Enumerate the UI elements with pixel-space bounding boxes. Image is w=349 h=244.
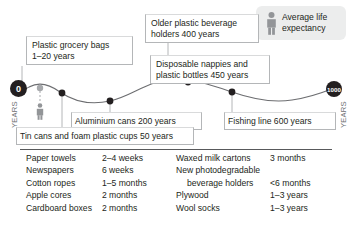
- table-cell-duration: 3 months: [270, 152, 310, 164]
- legend-label: Average life expectancy: [282, 12, 344, 34]
- label-aluminium-cans: Aluminium cans 200 years: [75, 116, 176, 127]
- table-cell-duration: 2–4 weeks: [102, 152, 147, 164]
- table-row: Paper towels 2–4 weeks: [26, 152, 147, 164]
- table-cell-item: Plywood: [176, 189, 270, 201]
- axis-end-label: 1000: [327, 86, 341, 93]
- person-figure-icon: [265, 12, 278, 35]
- decomposition-table-left: Paper towels 2–4 weeks Newspapers 6 week…: [26, 152, 147, 214]
- table-row: Waxed milk cartons 3 months: [176, 152, 310, 164]
- table-row: Wool socks 1–3 years: [176, 202, 310, 214]
- table-row: Newspapers 6 weeks: [26, 164, 147, 176]
- marker-fishing-line: [229, 89, 236, 96]
- axis-unit-right: YEARS: [339, 101, 348, 128]
- table-cell-duration: [270, 164, 310, 176]
- callout-disposable-nappies: Disposable nappies and plastic bottles 4…: [150, 55, 270, 84]
- callout-plastic-grocery-bags: Plastic grocery bags 1–20 years: [26, 36, 133, 65]
- table-cell-item: beverage holders: [176, 177, 270, 189]
- marker-tin-cans: [59, 90, 66, 97]
- axis-end-marker: 1000: [326, 81, 342, 97]
- callout-line2: plastic bottles 450 years: [156, 70, 264, 81]
- table-cell-duration: 1–3 years: [270, 202, 310, 214]
- table-cell-item: Apple cores: [26, 189, 102, 201]
- table-row: New photodegradable: [176, 164, 310, 176]
- legend-label-line2: expectancy: [282, 23, 344, 34]
- table-divider: [20, 149, 332, 150]
- person-figure-marker-icon: [37, 103, 43, 120]
- table-row: Cardboard boxes 2 months: [26, 202, 147, 214]
- callout-line2: holders 400 years: [151, 29, 253, 40]
- label-tin-cans-foam-cups: Tin cans and foam plastic cups 50 years: [20, 131, 173, 142]
- infographic-canvas: Average life expectancy: [0, 0, 349, 244]
- table-cell-duration: 6 weeks: [102, 164, 147, 176]
- table-cell-duration: 2 months: [102, 202, 147, 214]
- callout-line1: Disposable nappies and: [156, 59, 264, 70]
- table-row: Cotton ropes 1–5 months: [26, 177, 147, 189]
- callout-line2: 1–20 years: [32, 51, 127, 62]
- callout-older-plastic-beverage-holders: Older plastic beverage holders 400 years: [145, 14, 259, 43]
- axis-start-label: 0: [16, 84, 21, 94]
- table-cell-item: Cotton ropes: [26, 177, 102, 189]
- table-cell-item: Newspapers: [26, 164, 102, 176]
- legend-label-line1: Average life: [282, 12, 344, 23]
- axis-start-marker: 0: [10, 80, 27, 97]
- decomposition-table-right: Waxed milk cartons 3 months New photodeg…: [176, 152, 310, 214]
- callout-line1: Plastic grocery bags: [32, 40, 127, 51]
- table-cell-duration: 1–5 months: [102, 177, 147, 189]
- marker-average-life-expectancy: [37, 85, 43, 91]
- table-row: beverage holders <6 months: [176, 177, 310, 189]
- table-cell-item: Wool socks: [176, 202, 270, 214]
- table-row: Apple cores 2 months: [26, 189, 147, 201]
- table-row: Plywood 1–3 years: [176, 189, 310, 201]
- marker-aluminium-cans: [107, 98, 114, 105]
- table-cell-duration: <6 months: [270, 177, 310, 189]
- table-cell-item: New photodegradable: [176, 164, 270, 176]
- axis-unit-left: YEARS: [10, 101, 19, 128]
- table-cell-duration: 1–3 years: [270, 189, 310, 201]
- legend: Average life expectancy: [256, 6, 346, 40]
- callout-line1: Older plastic beverage: [151, 18, 253, 29]
- table-cell-item: Waxed milk cartons: [176, 152, 270, 164]
- table-cell-duration: 2 months: [102, 189, 147, 201]
- table-cell-item: Cardboard boxes: [26, 202, 102, 214]
- label-fishing-line: Fishing line 600 years: [228, 116, 312, 127]
- table-cell-item: Paper towels: [26, 152, 102, 164]
